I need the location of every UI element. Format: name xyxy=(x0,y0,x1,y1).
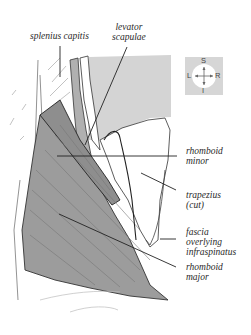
orientation-compass: S I L R xyxy=(185,57,223,95)
label-text: rhomboid xyxy=(186,146,223,156)
label-text: trapezius xyxy=(186,190,221,200)
compass-superior: S xyxy=(201,57,206,65)
label-splenius-capitis: splenius capitis xyxy=(30,31,89,41)
label-text: levator xyxy=(112,22,146,32)
compass-right: R xyxy=(215,72,220,80)
label-text: infraspinatus xyxy=(186,247,236,257)
label-rhomboid-major: rhomboid major xyxy=(186,262,223,282)
label-text: minor xyxy=(186,156,223,166)
label-trapezius: trapezius (cut) xyxy=(186,190,221,210)
lower-curves xyxy=(40,291,120,312)
label-levator-scapulae: levator scapulae xyxy=(112,22,146,42)
label-text: splenius capitis xyxy=(30,31,89,41)
anatomy-illustration xyxy=(0,0,251,335)
label-fascia-infraspinatus: fascia overlying infraspinatus xyxy=(186,227,236,257)
label-text: major xyxy=(186,272,223,282)
label-text: rhomboid xyxy=(186,262,223,272)
label-text: (cut) xyxy=(186,200,221,210)
compass-left: L xyxy=(187,72,191,80)
label-text: scapulae xyxy=(112,32,146,42)
label-text: fascia xyxy=(186,227,236,237)
compass-inferior: I xyxy=(202,87,204,95)
label-text: overlying xyxy=(186,237,236,247)
label-rhomboid-minor: rhomboid minor xyxy=(186,146,223,166)
